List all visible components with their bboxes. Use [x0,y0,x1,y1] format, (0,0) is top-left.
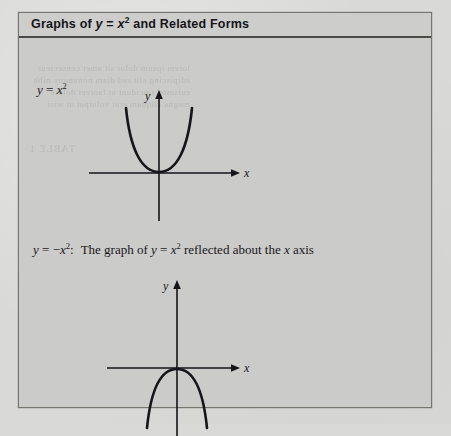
figure-title-suffix: and Related Forms [130,17,250,31]
y-axis-label: y [162,279,169,293]
figure-box-header: Graphs of y = x2 and Related Forms [19,13,431,38]
bleed-through-table-label: TABLE 1 [29,143,75,155]
caption-2-minus: − [53,242,60,257]
caption-2-text-1: The graph of [81,242,151,257]
graph-parabola-upward: x y [89,86,259,221]
graph-parabola-downward: x y [107,276,292,436]
y-axis-arrowhead [155,90,163,99]
figure-box-body: lorem ipsum dolor sit amet consecteur ad… [19,38,431,407]
caption-second-equation: y = −x2:The graph of y = x2 reflected ab… [33,242,314,258]
figure-title: Graphs of y = x2 and Related Forms [31,17,249,31]
x-axis-label: x [243,166,250,180]
figure-title-var-x: x [118,17,125,31]
caption-2-text-3: axis [290,242,314,257]
caption-2-text-2: reflected about the [181,242,284,257]
figure-title-prefix: Graphs of [31,17,96,31]
y-axis-label: y [144,89,151,103]
caption-2-equals2: = [157,242,171,257]
figure-title-equals: = [103,17,118,31]
x-axis-arrowhead [231,364,240,372]
caption-2-equals: = [39,242,53,257]
caption-first-equation: y = x2 [37,82,67,98]
x-axis-arrowhead [231,169,240,177]
caption-1-equals: = [43,82,57,97]
figure-title-var-y: y [96,17,103,31]
y-axis-arrowhead [173,280,181,289]
figure-box: Graphs of y = x2 and Related Forms lorem… [18,12,432,408]
caption-1-exponent: 2 [62,81,66,91]
x-axis-label: x [243,361,250,375]
caption-2-colon: : [70,242,74,257]
